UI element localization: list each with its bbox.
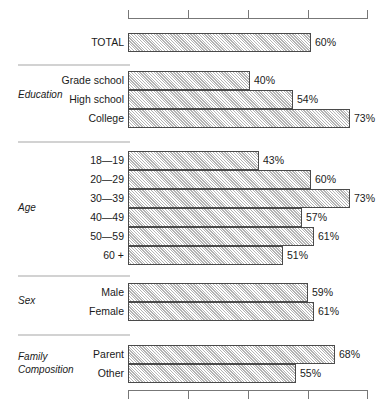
bar-value-grade-school: 40%: [250, 71, 275, 90]
axis-top-tick-1: [188, 10, 189, 19]
bar-wrap-age-60-plus: 51%: [128, 246, 390, 265]
table-row: Female 61%: [0, 302, 390, 321]
bar-value-other: 55%: [296, 364, 321, 383]
bar-grade-school: [128, 71, 250, 90]
separator-2: [18, 141, 130, 143]
row-label-age-18-19: 18—19: [90, 151, 124, 170]
bar-male: [128, 283, 308, 302]
separator-1: [18, 64, 130, 66]
bar-wrap-grade-school: 40%: [128, 71, 390, 90]
bar-total: [128, 33, 311, 52]
row-label-high-school: High school: [69, 90, 124, 109]
axis-bottom-tick-4: [367, 390, 368, 399]
table-row: 20—29 60%: [0, 170, 390, 189]
bar-value-college: 73%: [350, 109, 375, 128]
table-row: Male 59%: [0, 283, 390, 302]
separator-4: [18, 334, 130, 336]
axis-top-tick-3: [308, 10, 309, 19]
row-label-age-50-59: 50—59: [90, 227, 124, 246]
bar-wrap-other: 55%: [128, 364, 390, 383]
row-label-age-20-29: 20—29: [90, 170, 124, 189]
axis-top: [128, 10, 368, 19]
bar-value-female: 61%: [314, 302, 339, 321]
table-row: 50—59 61%: [0, 227, 390, 246]
bar-value-parent: 68%: [335, 345, 360, 364]
table-row: Grade school 40%: [0, 71, 390, 90]
separator-3: [18, 275, 130, 277]
row-label-total: TOTAL: [91, 33, 124, 52]
table-row: 30—39 73%: [0, 189, 390, 208]
row-label-age-40-49: 40—49: [90, 208, 124, 227]
bar-parent: [128, 345, 335, 364]
group-family-rows: Parent 68% Other 55%: [0, 345, 390, 383]
row-label-college: College: [88, 109, 124, 128]
group-sex-rows: Male 59% Female 61%: [0, 283, 390, 321]
bar-value-high-school: 54%: [293, 90, 318, 109]
bar-age-30-39: [128, 189, 350, 208]
axis-bottom-tick-2: [248, 390, 249, 399]
bar-wrap-parent: 68%: [128, 345, 390, 364]
bar-female: [128, 302, 314, 321]
bar-chart: TOTAL 60% Education Grade school 40% Hig…: [0, 0, 390, 415]
axis-top-tick-0: [128, 10, 129, 19]
bar-wrap-high-school: 54%: [128, 90, 390, 109]
table-row: Other 55%: [0, 364, 390, 383]
table-row: College 73%: [0, 109, 390, 128]
table-row: Parent 68%: [0, 345, 390, 364]
row-label-age-60-plus: 60 +: [103, 246, 124, 265]
axis-top-tick-2: [248, 10, 249, 19]
table-row: 60 + 51%: [0, 246, 390, 265]
bar-wrap-age-20-29: 60%: [128, 170, 390, 189]
bar-value-age-20-29: 60%: [311, 170, 336, 189]
bar-wrap-age-30-39: 73%: [128, 189, 390, 208]
axis-bottom-tick-0: [128, 390, 129, 399]
group-total-rows: TOTAL 60%: [0, 33, 390, 52]
bar-wrap-college: 73%: [128, 109, 390, 128]
bar-wrap-total: 60%: [128, 33, 390, 52]
table-row: 18—19 43%: [0, 151, 390, 170]
row-label-parent: Parent: [93, 345, 124, 364]
bar-age-50-59: [128, 227, 314, 246]
bar-wrap-age-18-19: 43%: [128, 151, 390, 170]
group-age-rows: 18—19 43% 20—29 60% 30—39 73%: [0, 151, 390, 265]
row-label-other: Other: [98, 364, 124, 383]
bar-high-school: [128, 90, 293, 109]
axis-bottom-tick-1: [188, 390, 189, 399]
bar-value-age-50-59: 61%: [314, 227, 339, 246]
axis-bottom-tick-3: [308, 390, 309, 399]
table-row: High school 54%: [0, 90, 390, 109]
row-label-grade-school: Grade school: [62, 71, 124, 90]
table-row: TOTAL 60%: [0, 33, 390, 52]
bar-wrap-female: 61%: [128, 302, 390, 321]
bar-wrap-age-50-59: 61%: [128, 227, 390, 246]
bar-other: [128, 364, 296, 383]
bar-value-age-18-19: 43%: [259, 151, 284, 170]
bar-age-18-19: [128, 151, 259, 170]
row-label-male: Male: [101, 283, 124, 302]
bar-wrap-male: 59%: [128, 283, 390, 302]
bar-age-40-49: [128, 208, 302, 227]
group-education-rows: Grade school 40% High school 54% College…: [0, 71, 390, 128]
axis-bottom: [128, 390, 368, 399]
bar-wrap-age-40-49: 57%: [128, 208, 390, 227]
row-label-age-30-39: 30—39: [90, 189, 124, 208]
bar-age-20-29: [128, 170, 311, 189]
bar-college: [128, 109, 350, 128]
bar-value-age-60-plus: 51%: [283, 246, 308, 265]
bar-value-male: 59%: [308, 283, 333, 302]
bar-age-60-plus: [128, 246, 283, 265]
bar-value-total: 60%: [311, 33, 336, 52]
row-label-female: Female: [89, 302, 124, 321]
bar-value-age-40-49: 57%: [302, 208, 327, 227]
axis-top-tick-4: [367, 10, 368, 19]
bar-value-age-30-39: 73%: [350, 189, 375, 208]
table-row: 40—49 57%: [0, 208, 390, 227]
